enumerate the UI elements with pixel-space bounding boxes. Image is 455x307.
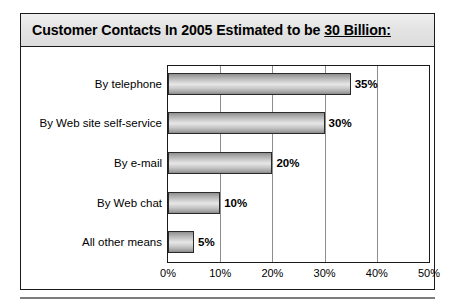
page-title: Customer Contacts In 2005 Estimated to b…	[21, 22, 391, 38]
bar	[168, 73, 351, 95]
category-label: By Web chat	[97, 192, 162, 214]
plot-area: By telephone35%By Web site self-service3…	[167, 65, 430, 263]
bar-row: By e-mail20%	[168, 152, 429, 174]
bar	[168, 231, 194, 253]
bar-row: By Web site self-service30%	[168, 112, 429, 134]
x-tick-label: 0%	[160, 267, 176, 279]
chart-title-band: Customer Contacts In 2005 Estimated to b…	[21, 14, 434, 47]
x-tick-label: 20%	[261, 267, 283, 279]
bar	[168, 112, 325, 134]
bar-value-label: 10%	[224, 192, 247, 214]
x-tick-label: 30%	[314, 267, 336, 279]
bar	[168, 152, 272, 174]
bar-row: All other means5%	[168, 231, 429, 253]
category-label: All other means	[82, 231, 162, 253]
bar-row: By telephone35%	[168, 73, 429, 95]
bar-value-label: 5%	[198, 231, 215, 253]
x-tick-label: 50%	[418, 267, 440, 279]
bar-value-label: 20%	[276, 152, 299, 174]
plot-wrapper: By telephone35%By Web site self-service3…	[21, 47, 434, 289]
bottom-divider	[20, 297, 435, 299]
title-prefix: Customer Contacts In 2005 Estimated to b…	[32, 22, 324, 38]
bar-value-label: 30%	[329, 112, 352, 134]
bar-row: By Web chat10%	[168, 192, 429, 214]
title-emphasis: 30 Billion:	[324, 22, 391, 38]
category-label: By Web site self-service	[40, 112, 163, 134]
x-tick-label: 40%	[366, 267, 388, 279]
bar-value-label: 35%	[355, 73, 378, 95]
category-label: By telephone	[95, 73, 162, 95]
x-tick-label: 10%	[209, 267, 231, 279]
bar	[168, 192, 220, 214]
category-label: By e-mail	[114, 152, 162, 174]
figure-container: Customer Contacts In 2005 Estimated to b…	[20, 13, 435, 290]
